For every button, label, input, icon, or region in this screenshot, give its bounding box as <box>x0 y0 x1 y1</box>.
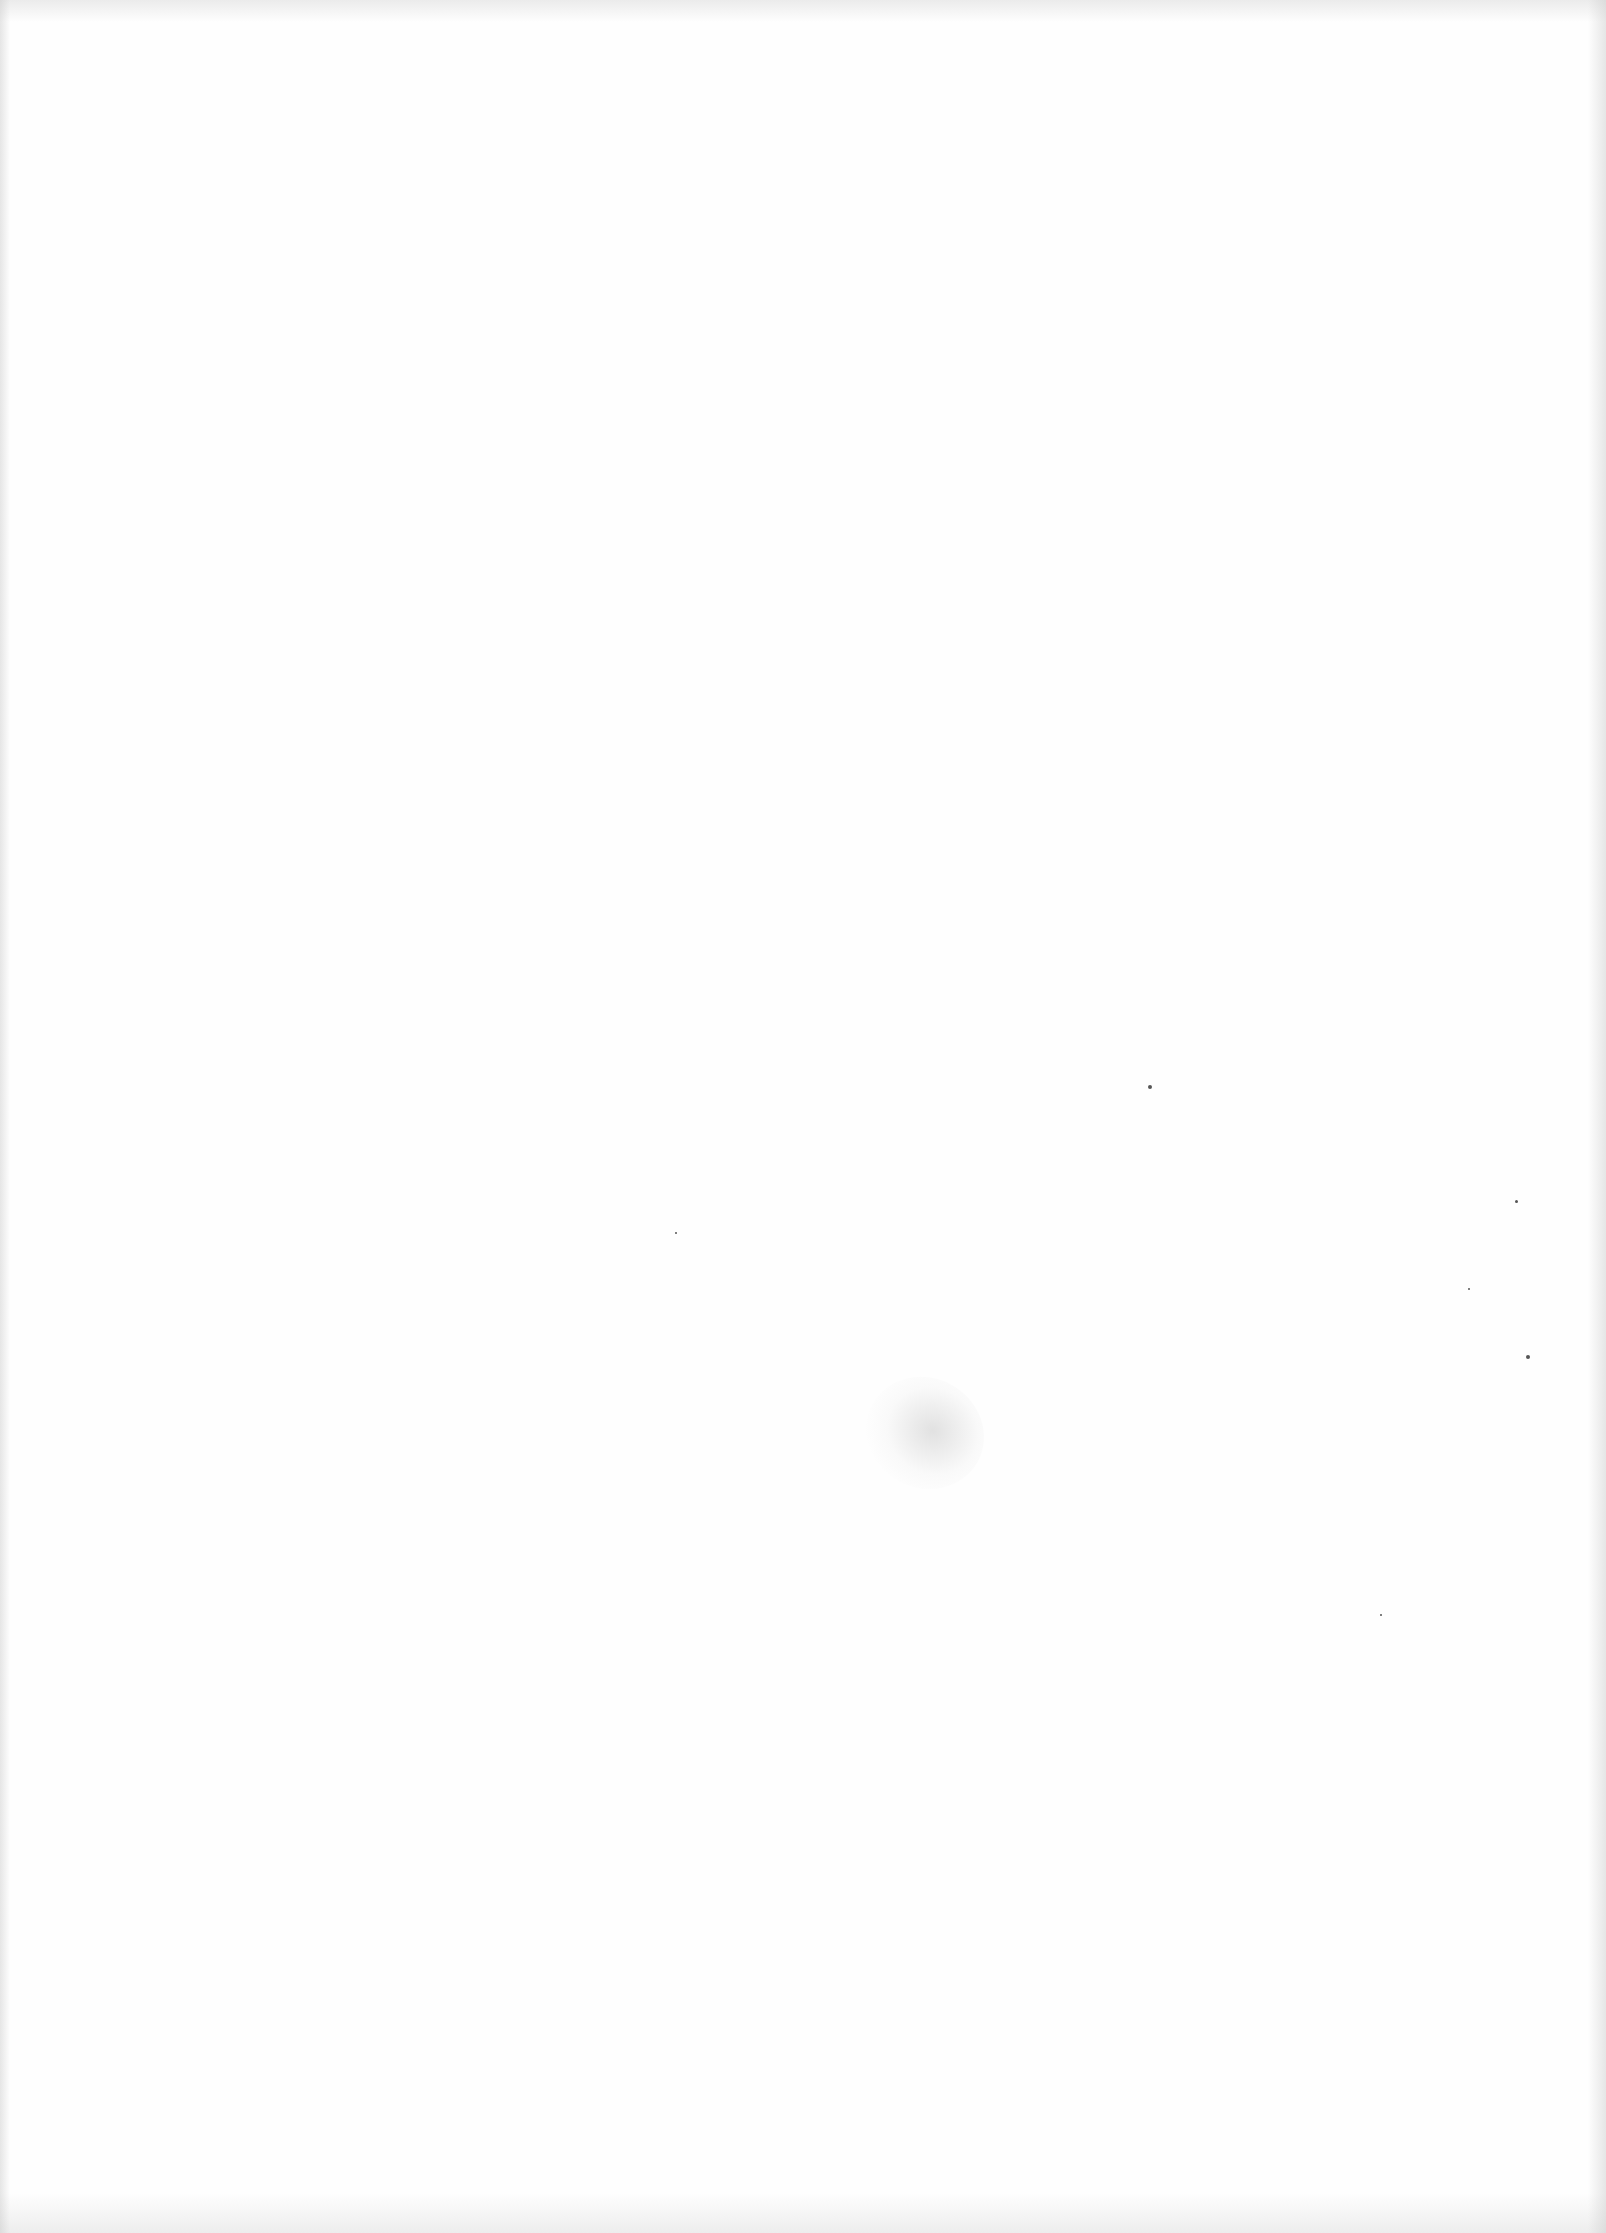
dust-speck <box>1468 1288 1470 1290</box>
paper-smudge <box>846 1356 1004 1509</box>
scan-edge-top <box>0 0 1606 22</box>
scan-edge-bottom <box>0 2193 1606 2233</box>
scan-edge-right <box>1588 0 1606 2233</box>
dust-speck <box>1380 1614 1382 1616</box>
dust-speck <box>1148 1085 1152 1089</box>
dust-speck <box>675 1232 677 1234</box>
scanned-page <box>0 0 1606 2233</box>
dust-speck <box>1526 1355 1530 1359</box>
scan-edge-left <box>0 0 10 2233</box>
dust-speck <box>1515 1200 1518 1203</box>
